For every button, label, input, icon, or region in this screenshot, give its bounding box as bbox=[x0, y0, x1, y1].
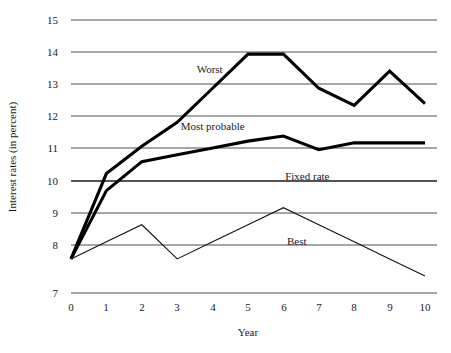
y-axis-title: Interest rates (in percent) bbox=[6, 102, 19, 213]
interest-rate-scenario-chart: 15 14 13 12 11 10 9 8 7 0 1 2 3 4 5 6 7 … bbox=[0, 0, 451, 353]
series-paths bbox=[71, 54, 425, 276]
x-tick-label-0: 0 bbox=[68, 301, 74, 313]
x-tick-label-4: 4 bbox=[210, 301, 216, 313]
series-line-best bbox=[71, 208, 425, 276]
y-tick-label-12: 12 bbox=[47, 110, 58, 122]
series-line-most-probable bbox=[71, 136, 425, 259]
x-tick-label-8: 8 bbox=[351, 301, 357, 313]
y-tick-label-14: 14 bbox=[47, 46, 59, 58]
x-tick-label-6: 6 bbox=[281, 301, 287, 313]
x-tick-label-7: 7 bbox=[316, 301, 322, 313]
x-tick-label-10: 10 bbox=[420, 301, 432, 313]
y-tick-label-9: 9 bbox=[53, 207, 59, 219]
series-line-worst bbox=[71, 54, 425, 259]
y-axis-tick-labels: 15 14 13 12 11 10 9 8 7 bbox=[47, 14, 59, 299]
y-tick-label-15: 15 bbox=[47, 14, 59, 26]
series-annotation-worst: Worst bbox=[197, 63, 223, 75]
y-tick-label-8: 8 bbox=[53, 239, 59, 251]
y-tick-label-10: 10 bbox=[47, 175, 59, 187]
y-gridlines bbox=[71, 20, 437, 293]
x-tick-label-3: 3 bbox=[174, 301, 180, 313]
series-annotation-fixed-rate: Fixed rate bbox=[285, 170, 329, 182]
y-tick-label-7: 7 bbox=[53, 287, 59, 299]
x-tick-label-5: 5 bbox=[245, 301, 251, 313]
x-tick-label-1: 1 bbox=[103, 301, 109, 313]
y-tick-label-11: 11 bbox=[47, 142, 58, 154]
series-annotation-best: Best bbox=[287, 235, 307, 247]
x-tick-label-9: 9 bbox=[387, 301, 393, 313]
x-axis-tick-labels: 0 1 2 3 4 5 6 7 8 9 10 bbox=[68, 301, 431, 313]
x-axis-title: Year bbox=[238, 326, 259, 338]
y-tick-label-13: 13 bbox=[47, 78, 59, 90]
x-tick-label-2: 2 bbox=[139, 301, 145, 313]
series-annotation-most-probable: Most probable bbox=[181, 120, 245, 132]
chart-canvas: 15 14 13 12 11 10 9 8 7 0 1 2 3 4 5 6 7 … bbox=[0, 0, 451, 353]
